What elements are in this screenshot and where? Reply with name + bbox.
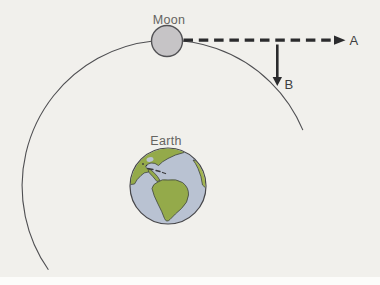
earth-label: Earth (150, 134, 181, 148)
moon-label: Moon (153, 13, 185, 27)
moon-circle (152, 26, 183, 57)
page-bottom-strip (0, 277, 380, 285)
arrow-a-label: A (350, 33, 359, 48)
figure-moon-earth-orbit: Moon Earth A B (0, 0, 380, 285)
figure-background (0, 0, 380, 285)
arrow-b-label: B (285, 77, 294, 92)
